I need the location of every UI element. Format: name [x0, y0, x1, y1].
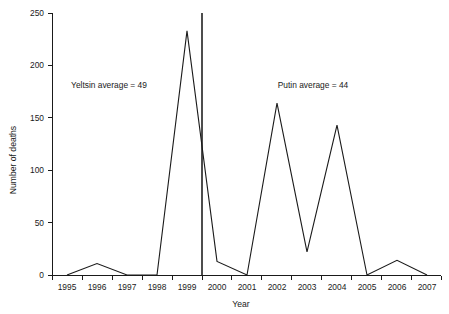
x-tick-label-1998: 1998 — [148, 282, 167, 292]
deaths-line-series — [67, 31, 427, 275]
chart-figure: Number of deaths 250 200 150 100 50 0 — [0, 0, 449, 314]
x-axis-title: Year — [232, 299, 250, 309]
annotation-putin-average: Putin average = 44 — [278, 80, 349, 90]
y-tick-label-250: 250 — [30, 8, 44, 18]
annotation-yeltsin-average: Yeltsin average = 49 — [71, 80, 147, 90]
x-tick-label-1995: 1995 — [58, 282, 77, 292]
y-tick-label-150: 150 — [30, 113, 44, 123]
y-tick-label-50: 50 — [35, 218, 45, 228]
x-tick-label-1996: 1996 — [88, 282, 107, 292]
line-chart: Number of deaths 250 200 150 100 50 0 — [0, 0, 449, 314]
x-tick-label-2005: 2005 — [358, 282, 377, 292]
x-tick-label-2004: 2004 — [328, 282, 347, 292]
x-tick-label-2006: 2006 — [388, 282, 407, 292]
y-axis-title: Number of deaths — [8, 126, 18, 194]
y-tick-label-0: 0 — [39, 270, 44, 280]
x-tick-label-1997: 1997 — [118, 282, 137, 292]
x-tick-label-2001: 2001 — [238, 282, 257, 292]
y-tick-label-200: 200 — [30, 60, 44, 70]
x-tick-label-1999: 1999 — [178, 282, 197, 292]
x-tick-label-2002: 2002 — [268, 282, 287, 292]
x-tick-label-2003: 2003 — [298, 282, 317, 292]
y-tick-label-100: 100 — [30, 165, 44, 175]
x-tick-label-2000: 2000 — [208, 282, 227, 292]
x-tick-label-2007: 2007 — [418, 282, 437, 292]
